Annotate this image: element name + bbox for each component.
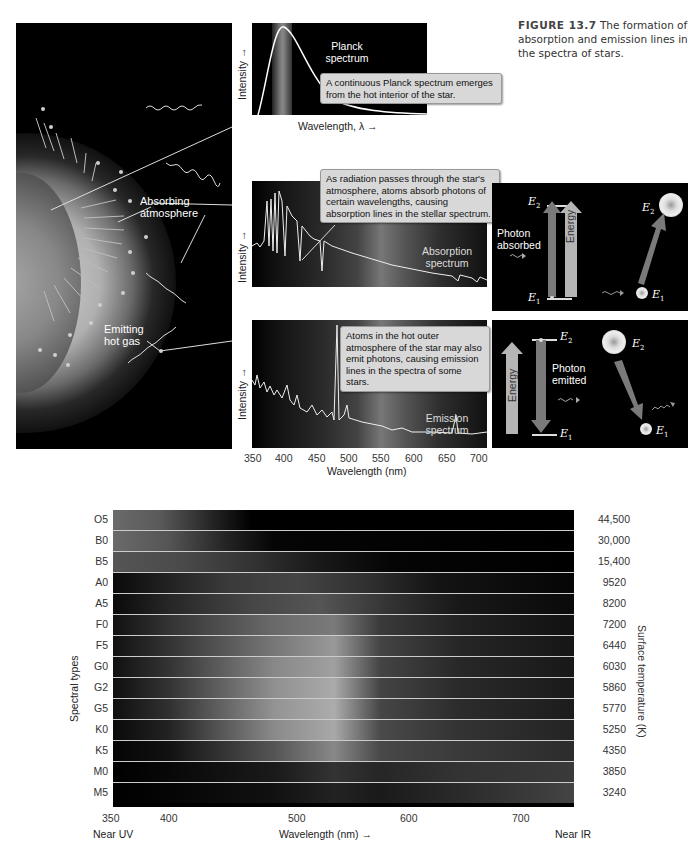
spectral-x-axis: 350 400 500 600 700 [100,812,600,826]
energy-axis-label: Energy [564,210,576,243]
star-illustration: Absorbing atmosphere Emitting hot gas [16,23,232,449]
planck-x-axis-label: Wavelength, λ → [298,120,378,132]
spectral-type-labels: O5 B0 B5 A0 A5 F0 F5 G0 G2 G5 K0 K5 M0 M… [0,510,110,810]
near-ir-label: Near IR [555,828,591,840]
figure-caption: FIGURE 13.7 The formation of absorption … [518,18,698,60]
stellar-spectra-chart [113,510,574,807]
spectral-x-axis-label: Wavelength (nm) → [279,828,372,840]
emission-x-axis-label: Wavelength (nm) [327,465,407,477]
arrow-up-icon [492,183,595,311]
temperature-labels: 44,500 30,000 15,400 9520 8200 7200 6440… [578,510,630,810]
energy-level-absorbed-diagram: E2 E1 Photon absorbed Energy [492,183,595,311]
atom-excitation-diagram: E2 E1 [594,183,688,311]
surface-temperature-axis-label: Surface temperature (K) [636,625,648,738]
energy-level-emitted-diagram: E2 E1 Photon emitted Energy [492,320,595,448]
arrow-diagonal-up-icon [594,183,688,311]
arrow-diagonal-down-icon [594,320,688,448]
energy-axis-label: Energy [506,369,518,402]
absorbing-atmosphere-label: Absorbing atmosphere [140,195,198,219]
absorption-label: Absorption spectrum [417,245,477,269]
absorption-y-axis-label: Intensity → [236,230,248,283]
emitting-hot-gas-label: Emitting hot gas [104,323,144,347]
emission-callout: Atoms in the hot outer atmosphere of the… [340,326,490,392]
near-uv-label: Near UV [93,828,133,840]
figure-number: FIGURE 13.7 [518,19,597,31]
atom-deexcitation-diagram: E2 E1 [594,320,688,448]
planck-callout: A continuous Planck spectrum emerges fro… [320,73,502,104]
emission-label: Emission spectrum [417,412,477,436]
photon-rays-icon [16,23,232,449]
absorption-callout: As radiation passes through the star's a… [320,169,500,223]
emission-x-axis: 350 400 450 500 550 600 650 700 [244,452,494,466]
planck-title: Planck spectrum [322,40,372,64]
emission-y-axis-label: Intensity → [236,367,248,420]
planck-y-axis-label: Intensity → [236,47,248,100]
